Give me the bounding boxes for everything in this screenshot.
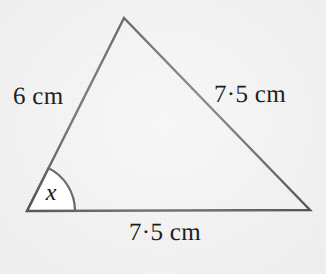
triangle-outline (27, 18, 310, 211)
side-label-base: 7·5 cm (129, 220, 201, 245)
side-label-right: 7·5 cm (214, 82, 286, 107)
side-label-left: 6 cm (13, 84, 64, 109)
geometry-figure: 6 cm 7·5 cm 7·5 cm x (0, 0, 326, 274)
angle-label-x: x (41, 180, 61, 204)
